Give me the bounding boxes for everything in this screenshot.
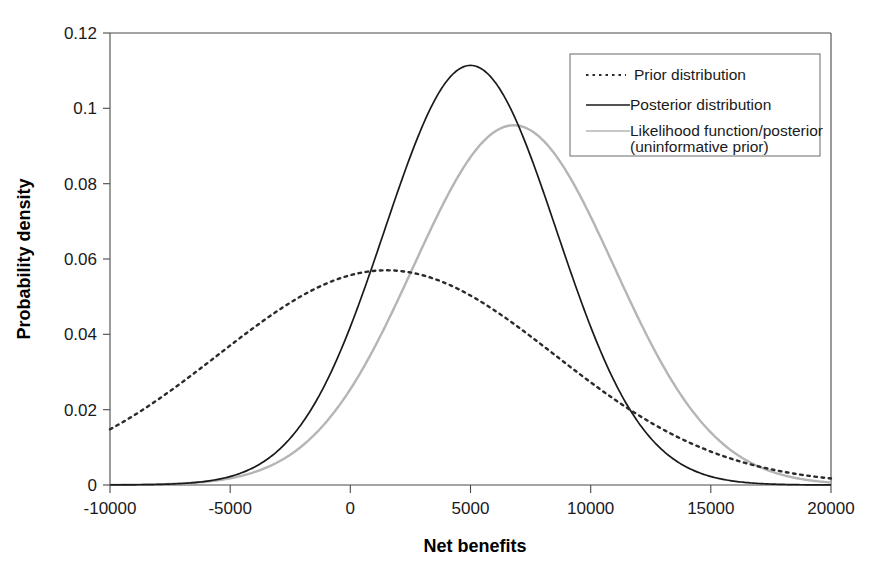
legend-label-likelihood: Likelihood function/posterior — [630, 122, 823, 139]
y-axis-title: Probability density — [14, 178, 34, 339]
x-axis-ticks — [110, 485, 831, 493]
x-tick-label-15000: 15000 — [687, 499, 734, 518]
legend-label-prior: Prior distribution — [634, 66, 746, 83]
x-axis-tick-labels: -10000 -5000 0 5000 10000 15000 20000 — [84, 499, 855, 518]
y-tick-label-0.1: 0.1 — [73, 99, 97, 118]
prior-curve — [110, 270, 831, 478]
y-axis-tick-labels: 0.12 0.1 0.08 0.06 0.04 0.02 0 — [64, 24, 97, 495]
y-tick-label-0: 0 — [88, 476, 97, 495]
y-tick-label-0.06: 0.06 — [64, 250, 97, 269]
y-tick-label-0.04: 0.04 — [64, 325, 97, 344]
x-tick-label-20000: 20000 — [807, 499, 854, 518]
y-tick-label-0.02: 0.02 — [64, 401, 97, 420]
x-tick-label-0: 0 — [346, 499, 355, 518]
y-axis-ticks — [103, 33, 110, 485]
x-tick-label-5000: 5000 — [452, 499, 490, 518]
legend-label-posterior: Posterior distribution — [630, 96, 771, 113]
y-tick-label-0.08: 0.08 — [64, 175, 97, 194]
legend-label-likelihood-line2: (uninformative prior) — [630, 138, 769, 155]
x-tick-label-10000: 10000 — [567, 499, 614, 518]
chart-page: 0.12 0.1 0.08 0.06 0.04 0.02 0 -10000 -5… — [0, 0, 883, 572]
y-tick-label-0.12: 0.12 — [64, 24, 97, 43]
chart-legend: Prior distribution Posterior distributio… — [570, 54, 823, 156]
probability-density-chart: 0.12 0.1 0.08 0.06 0.04 0.02 0 -10000 -5… — [0, 0, 883, 572]
x-tick-label--5000: -5000 — [208, 499, 251, 518]
x-axis-title: Net benefits — [423, 536, 526, 556]
likelihood-curve — [110, 125, 831, 485]
x-tick-label--10000: -10000 — [84, 499, 137, 518]
